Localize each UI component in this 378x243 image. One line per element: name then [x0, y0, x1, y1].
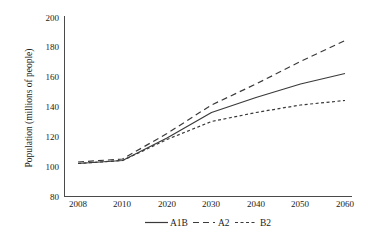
x-tick-label: 2010: [113, 199, 132, 209]
x-tick-label: 2060: [336, 199, 355, 209]
y-axis-title: Population (millions of people): [24, 48, 35, 167]
y-tick-label: 180: [46, 42, 60, 52]
y-tick-label: 120: [46, 132, 60, 142]
x-tick-label: 2030: [202, 199, 221, 209]
y-tick-label: 200: [46, 13, 60, 23]
series-line-A2: [78, 41, 345, 163]
x-tick-label: 2020: [158, 199, 177, 209]
series-line-A1B: [78, 74, 345, 164]
series-line-B2: [78, 101, 345, 164]
legend-label-B2: B2: [260, 218, 271, 228]
legend-label-A1B: A1B: [170, 218, 188, 228]
y-axis-tick-labels: 200 180 160 140 120 100 80: [46, 13, 60, 202]
series-lines: [78, 41, 345, 164]
chart-canvas: Population (millions of people) 200 180 …: [0, 0, 378, 243]
population-projection-chart: Population (millions of people) 200 180 …: [0, 0, 378, 243]
y-tick-label: 100: [46, 162, 60, 172]
x-tick-label: 2050: [291, 199, 310, 209]
legend-label-A2: A2: [218, 218, 230, 228]
y-tick-label: 140: [46, 102, 60, 112]
y-tick-label: 160: [46, 72, 60, 82]
x-tick-label: 2040: [247, 199, 266, 209]
x-axis-tick-labels: 2008 2010 2020 2030 2040 2050 2060: [69, 199, 355, 209]
y-tick-label: 80: [50, 192, 60, 202]
x-tick-label: 2008: [69, 199, 88, 209]
chart-legend: A1B A2 B2: [145, 218, 271, 228]
axis-lines: [65, 16, 353, 197]
